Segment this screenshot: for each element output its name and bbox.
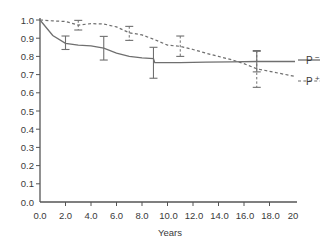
legend: P − P + <box>298 53 320 87</box>
legend-label-p-minus: P <box>306 55 313 66</box>
x-tick-label: 6.0 <box>110 210 123 221</box>
y-tick-label: 0.6 <box>21 87 34 98</box>
x-tick-label: 8.0 <box>135 210 148 221</box>
x-axis-title: Years <box>158 227 182 238</box>
error-bars-p-plus <box>74 20 261 87</box>
x-tick-label: 0.0 <box>33 210 46 221</box>
y-tick-label: 0.5 <box>21 106 34 117</box>
y-tick-label: 0.0 <box>21 197 34 208</box>
x-tick-label: 18.0 <box>261 210 280 221</box>
chart-canvas: 1.0 0.9 0.8 0.7 0.6 0.5 0.4 0.3 0.2 0.1 … <box>0 0 334 252</box>
survival-curve-figure: 1.0 0.9 0.8 0.7 0.6 0.5 0.4 0.3 0.2 0.1 … <box>0 0 334 252</box>
y-axis-tick-labels: 1.0 0.9 0.8 0.7 0.6 0.5 0.4 0.3 0.2 0.1 … <box>21 15 34 208</box>
x-tick-label: 20 <box>288 210 299 221</box>
x-tick-label: 2.0 <box>59 210 72 221</box>
y-tick-label: 1.0 <box>21 15 34 26</box>
legend-sup-plus: + <box>315 74 320 83</box>
y-tick-label: 0.7 <box>21 69 34 80</box>
y-tick-label: 0.9 <box>21 33 34 44</box>
y-tick-label: 0.3 <box>21 142 34 153</box>
x-tick-label: 4.0 <box>84 210 97 221</box>
y-tick-label: 0.2 <box>21 160 34 171</box>
y-tick-label: 0.8 <box>21 51 34 62</box>
y-tick-label: 0.4 <box>21 124 34 135</box>
x-axis-tick-labels: 0.0 2.0 4.0 6.0 8.0 10.0 12.0 14.0 16.0 … <box>33 210 298 221</box>
y-tick-label: 0.1 <box>21 178 34 189</box>
x-tick-label: 16.0 <box>236 210 255 221</box>
legend-sup-minus: − <box>315 53 320 62</box>
x-tick-label: 14.0 <box>210 210 229 221</box>
x-tick-label: 10.0 <box>159 210 178 221</box>
legend-label-p-plus: P <box>306 76 313 87</box>
x-tick-label: 12.0 <box>185 210 204 221</box>
